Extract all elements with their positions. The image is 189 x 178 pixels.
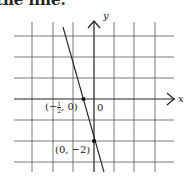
point-label-x-intercept: (−12, 0) xyxy=(45,101,78,114)
x-axis-label: x xyxy=(178,93,184,104)
axes xyxy=(14,21,175,172)
origin-label: 0 xyxy=(97,102,103,113)
point-x-intercept xyxy=(82,97,86,101)
point-y-intercept xyxy=(92,139,96,143)
coordinate-graph xyxy=(0,0,189,178)
point-label-y-intercept: (0, −2) xyxy=(55,144,90,155)
y-axis-label: y xyxy=(103,10,109,21)
